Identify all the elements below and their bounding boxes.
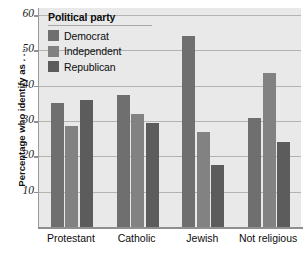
bar-catholic-democrat [117, 95, 130, 227]
legend-item-independent: Independent [48, 45, 152, 58]
bar-jewish-independent [197, 132, 210, 227]
y-tick-label-40: 40 [0, 78, 34, 90]
legend-swatch-independent [48, 46, 59, 57]
x-label-catholic: Catholic [104, 232, 170, 244]
y-tick-label-10: 10 [0, 184, 34, 196]
legend-swatch-republican [48, 61, 59, 72]
legend-item-democrat: Democrat [48, 29, 152, 42]
bar-not-religious-democrat [248, 118, 261, 228]
bar-protestant-independent [65, 126, 78, 227]
y-tick-label-20: 20 [0, 148, 34, 160]
legend: Political party Democrat Independent Rep… [48, 11, 152, 76]
bar-chart: Percentage who identify as . . . 1020304… [0, 0, 305, 259]
bar-protestant-republican [80, 100, 93, 227]
x-label-jewish: Jewish [170, 232, 236, 244]
bar-protestant-democrat [51, 103, 64, 227]
x-label-protestant: Protestant [38, 232, 104, 244]
bar-not-religious-republican [277, 142, 290, 227]
legend-label-republican: Republican [64, 61, 116, 73]
legend-swatch-democrat [48, 30, 59, 41]
legend-label-democrat: Democrat [64, 30, 109, 42]
bar-not-religious-independent [263, 73, 276, 227]
bar-catholic-republican [146, 123, 159, 227]
y-tick-label-60: 60 [0, 7, 34, 19]
bar-jewish-republican [211, 165, 224, 227]
y-tick-label-50: 50 [0, 42, 34, 54]
x-label-not-religious: Not religious [235, 232, 301, 244]
legend-title: Political party [48, 11, 152, 26]
legend-item-republican: Republican [48, 60, 152, 73]
legend-label-independent: Independent [64, 45, 121, 57]
y-tick-label-30: 30 [0, 113, 34, 125]
bar-jewish-democrat [182, 36, 195, 227]
bar-catholic-independent [131, 114, 144, 227]
